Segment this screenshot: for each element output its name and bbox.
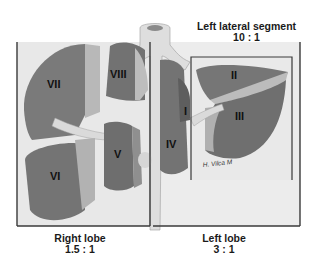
vena-cava-opening <box>147 25 163 31</box>
segment-vii-face <box>85 44 100 118</box>
caption-right-lobe-ratio: 1.5 : 1 <box>30 244 130 255</box>
caption-right-lobe: Right lobe 1.5 : 1 <box>30 233 130 255</box>
caption-left-lateral-segment-ratio: 10 : 1 <box>180 32 313 43</box>
segment-label-viii: VIII <box>110 68 127 80</box>
liver-diagram: VII VIII II I III IV V VI H. Vilca M Lef… <box>0 0 313 265</box>
caption-left-lateral-segment: Left lateral segment 10 : 1 <box>180 21 313 43</box>
segment-label-vii: VII <box>47 78 60 90</box>
caption-left-lobe: Left lobe 3 : 1 <box>174 233 274 255</box>
segment-label-i: I <box>184 105 187 117</box>
segment-label-vi: VI <box>50 170 60 182</box>
segment-label-v: V <box>114 148 122 160</box>
segment-label-ii: II <box>231 69 237 81</box>
segment-label-iii: III <box>235 110 244 122</box>
segment-label-iv: IV <box>166 138 177 150</box>
caption-left-lobe-ratio: 3 : 1 <box>174 244 274 255</box>
